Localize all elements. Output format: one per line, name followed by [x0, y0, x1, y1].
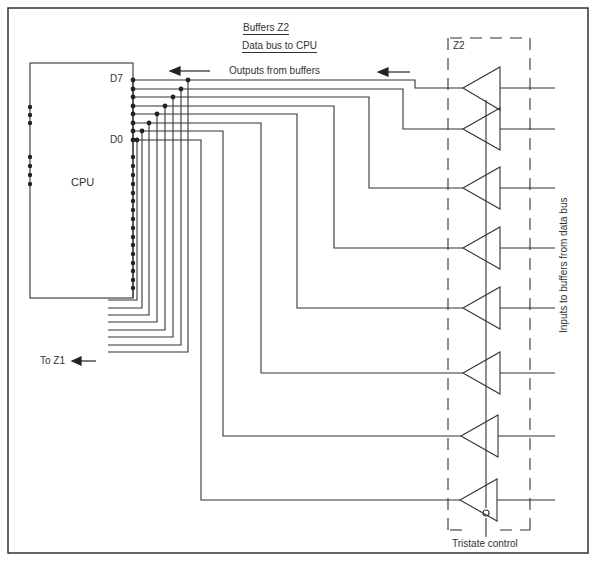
- bus-input-lines: [497, 88, 555, 500]
- d0-pin-label: D0: [110, 134, 123, 145]
- arrows: [72, 67, 410, 365]
- inputs-label: Inputs to buffers from data bus: [558, 198, 569, 333]
- circuit-diagram: [0, 0, 597, 569]
- tristate-control-label: Tristate control: [452, 538, 518, 549]
- buffers: [460, 67, 500, 521]
- buffer-2: [463, 352, 500, 394]
- junction-dots: [28, 78, 191, 291]
- z1-tap-wires: [108, 80, 188, 352]
- title-buffers-z2: Buffers Z2: [243, 22, 289, 35]
- z2-chip-label: Z2: [453, 40, 465, 51]
- buffer-0: [460, 479, 497, 521]
- outputs-label: Outputs from buffers: [229, 65, 320, 76]
- outer-frame: [8, 8, 588, 553]
- d7-pin-label: D7: [110, 73, 123, 84]
- buffer-4: [463, 227, 500, 269]
- title-data-bus: Data bus to CPU: [242, 40, 317, 53]
- to-z1-label: To Z1: [40, 355, 65, 366]
- buffer-5: [463, 167, 500, 209]
- z2-dashed-boundary: [448, 38, 530, 530]
- cpu-label: CPU: [71, 176, 94, 188]
- buffer-7: [463, 67, 500, 110]
- buffer-3: [463, 287, 500, 329]
- buffer-1: [461, 415, 498, 457]
- output-wires: [133, 80, 463, 500]
- buffer-6: [463, 108, 500, 150]
